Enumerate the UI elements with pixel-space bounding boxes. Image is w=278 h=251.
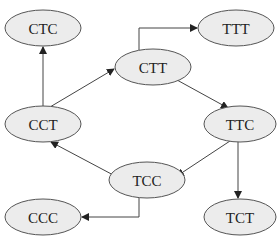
edge-tcc-ccc <box>82 197 139 217</box>
node-label: CCT <box>28 117 57 133</box>
graph-canvas: CTC TTT CTT CCT TTC TCC CCC TCT <box>0 0 278 251</box>
node-tcc: TCC <box>109 162 185 198</box>
edge-ctt-ttt <box>139 28 197 50</box>
node-ctc: CTC <box>5 10 81 46</box>
node-label: TTC <box>226 117 254 133</box>
node-label: CTC <box>28 21 57 37</box>
node-label: TCT <box>226 210 254 226</box>
edge-tcc-cct <box>51 142 117 177</box>
edge-ttc-tcc <box>177 141 230 176</box>
node-ttt: TTT <box>198 10 274 46</box>
node-ttc: TTC <box>204 106 276 142</box>
node-label: TCC <box>132 173 161 189</box>
node-label: CCC <box>28 210 58 226</box>
node-ctt: CTT <box>115 49 191 85</box>
edge-cct-ctt <box>50 69 114 107</box>
node-label: TTT <box>222 21 250 37</box>
node-ccc: CCC <box>5 199 81 235</box>
node-cct: CCT <box>5 106 81 142</box>
edge-ctt-ttc <box>177 80 228 108</box>
node-tct: TCT <box>204 199 276 235</box>
node-label: CTT <box>139 60 167 76</box>
